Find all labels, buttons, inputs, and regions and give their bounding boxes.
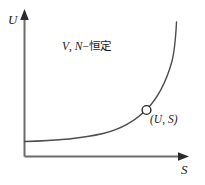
- y-axis-arrowhead-icon: [20, 9, 29, 20]
- x-axis-label: S: [181, 163, 188, 176]
- state-point-label: (U, S): [150, 114, 177, 126]
- constraint-suffix: −恒定: [82, 40, 111, 52]
- thermodynamic-diagram: U S V, N−恒定 (U, S): [0, 0, 205, 185]
- constraint-symbol-v: V: [62, 40, 69, 52]
- y-axis-label: U: [8, 13, 17, 26]
- constraint-annotation: V, N−恒定: [62, 41, 111, 53]
- x-axis-arrowhead-icon: [178, 152, 189, 161]
- plot-canvas: [0, 0, 205, 185]
